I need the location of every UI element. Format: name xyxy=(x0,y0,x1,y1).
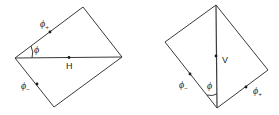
axis-label-v: V xyxy=(222,55,228,65)
phi-plus-label-h: ϕ+ xyxy=(40,18,49,30)
phi-minus-arrow-dot xyxy=(36,83,39,86)
axis-label-h: H xyxy=(66,61,73,71)
phi-minus-label-h: ϕ− xyxy=(21,80,30,92)
phi-plus-arrow-dot xyxy=(49,31,52,34)
phi-plus-arrow-dot-v xyxy=(245,86,248,89)
h-arrow-dot xyxy=(68,56,71,59)
diagram-vertical: V ϕ− ϕ ϕ+ xyxy=(165,5,268,108)
angle-label-h: ϕ xyxy=(34,44,39,55)
phi-minus-label-v: ϕ− xyxy=(179,79,188,91)
v-arrow-dot xyxy=(215,55,218,58)
phi-minus-arrow-dot-v xyxy=(189,73,192,76)
angle-arc-h xyxy=(31,46,33,58)
phi-plus-label-v: ϕ+ xyxy=(253,85,262,97)
angle-label-v: ϕ xyxy=(207,80,212,91)
diagram-horizontal: ϕ+ ϕ H ϕ− xyxy=(15,7,122,107)
polarization-diagrams: ϕ+ ϕ H ϕ− V ϕ− ϕ ϕ+ xyxy=(0,0,279,115)
angle-arc-v xyxy=(207,94,217,95)
